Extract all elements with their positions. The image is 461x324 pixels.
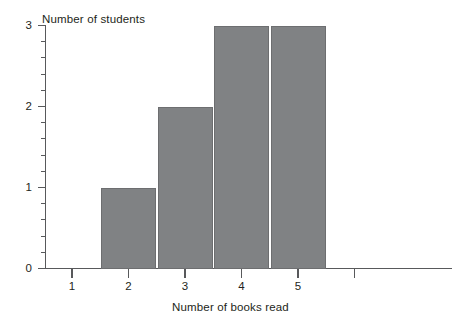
x-tick-label: 2	[117, 281, 141, 293]
x-tick	[71, 269, 72, 278]
bar-chart: Number of students 0123 12345 Number of …	[0, 0, 461, 324]
x-tick	[184, 269, 185, 278]
y-tick-major	[38, 106, 46, 107]
y-tick-minor	[41, 57, 46, 58]
bar	[271, 26, 326, 269]
y-tick-minor	[41, 203, 46, 204]
y-tick-minor	[41, 74, 46, 75]
y-tick-major	[38, 25, 46, 26]
y-tick-minor	[41, 236, 46, 237]
y-tick-label: 1	[10, 182, 32, 194]
y-axis-title: Number of students	[42, 13, 145, 25]
x-tick-label: 3	[173, 281, 197, 293]
y-axis-line	[45, 26, 46, 269]
bar	[101, 188, 156, 269]
y-tick-minor	[41, 252, 46, 253]
bar	[214, 26, 269, 269]
y-tick-major	[38, 268, 46, 269]
y-tick-minor	[41, 41, 46, 42]
x-tick	[128, 269, 129, 278]
x-tick-label: 5	[286, 281, 310, 293]
y-tick-major	[38, 187, 46, 188]
bar	[158, 107, 213, 269]
x-tick-unlabeled	[354, 269, 355, 278]
y-tick-label: 3	[10, 20, 32, 32]
y-tick-label: 0	[10, 263, 32, 275]
y-tick-minor	[41, 138, 46, 139]
x-tick	[297, 269, 298, 278]
y-tick-minor	[41, 219, 46, 220]
y-tick-minor	[41, 122, 46, 123]
x-axis-title: Number of books read	[0, 301, 461, 313]
y-tick-minor	[41, 90, 46, 91]
y-tick-minor	[41, 171, 46, 172]
y-tick-minor	[41, 155, 46, 156]
x-tick-label: 4	[230, 281, 254, 293]
y-tick-label: 2	[10, 101, 32, 113]
x-tick-label: 1	[60, 281, 84, 293]
x-tick	[241, 269, 242, 278]
